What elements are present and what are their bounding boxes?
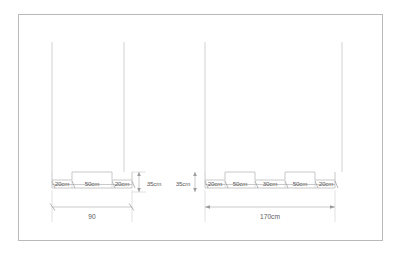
right-overall-arrow-left bbox=[205, 205, 210, 209]
right-segment-label-3: 50cm bbox=[293, 180, 308, 187]
left-height-label: 35cm bbox=[147, 180, 162, 187]
technical-drawing-canvas: 20cm 50cm 20cm 35cm 90 bbox=[0, 0, 401, 262]
right-segment-label-2: 30cm bbox=[263, 180, 278, 187]
left-overall-label: 90 bbox=[88, 213, 96, 220]
right-overall-arrow-right bbox=[330, 205, 335, 209]
right-segment-label-0: 20cm bbox=[208, 180, 223, 187]
right-segment-label-1: 50cm bbox=[233, 180, 248, 187]
left-height-arrow-top bbox=[137, 172, 141, 176]
right-height-arrow-top bbox=[193, 172, 197, 176]
left-stepped-profile bbox=[52, 172, 132, 180]
right-segment-label-4: 20cm bbox=[319, 180, 334, 187]
left-segment-label-0: 20cm bbox=[55, 180, 70, 187]
right-height-arrow-bottom bbox=[193, 188, 197, 192]
right-stepped-profile bbox=[205, 172, 335, 180]
right-height-label: 35cm bbox=[176, 180, 191, 187]
left-height-arrow-bottom bbox=[137, 188, 141, 192]
drawing-border bbox=[19, 15, 383, 241]
left-segment-label-2: 20cm bbox=[115, 180, 130, 187]
left-segment-label-1: 50cm bbox=[85, 180, 100, 187]
right-overall-label: 170cm bbox=[260, 213, 280, 220]
cad-drawing-svg: 20cm 50cm 20cm 35cm 90 bbox=[0, 0, 401, 262]
right-tick-5 bbox=[335, 181, 338, 188]
left-profile-assembly: 20cm 50cm 20cm 35cm 90 bbox=[50, 42, 161, 222]
right-profile-assembly: 20cm 50cm 30cm 50cm 20cm 35cm 170cm bbox=[176, 42, 342, 222]
